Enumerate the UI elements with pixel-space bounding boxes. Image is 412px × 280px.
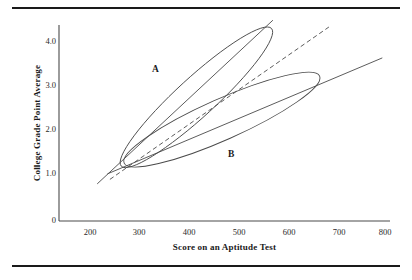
confidence-ellipse-a	[108, 14, 284, 180]
figure-panel: 4.0 3.0 2.0 1.0 0 200 300 400 500 600 70…	[0, 0, 412, 280]
x-tick-label-200: 200	[73, 227, 107, 237]
scatter-plot-canvas	[0, 0, 412, 280]
x-tick-label-400: 400	[172, 227, 206, 237]
x-tick-label-300: 300	[122, 227, 156, 237]
x-tick-label-700: 700	[322, 227, 356, 237]
regression-line-a	[97, 20, 273, 184]
y-axis-title: College Grade Point Average	[32, 43, 42, 203]
x-tick-label-500: 500	[222, 227, 256, 237]
x-axis-title: Score on an Aptitude Test	[59, 242, 390, 252]
annotation-label-a: A	[152, 64, 159, 74]
y-tick-label-0: 0	[30, 215, 56, 225]
regression-line-combined-dashed	[110, 27, 329, 179]
annotation-label-b: B	[228, 149, 234, 159]
x-tick-label-800: 800	[368, 227, 402, 237]
x-tick-label-600: 600	[272, 227, 306, 237]
